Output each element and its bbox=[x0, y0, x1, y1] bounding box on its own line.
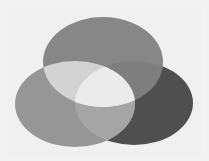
venn-diagram-canvas bbox=[0, 0, 209, 161]
venn-diagram bbox=[0, 0, 209, 161]
